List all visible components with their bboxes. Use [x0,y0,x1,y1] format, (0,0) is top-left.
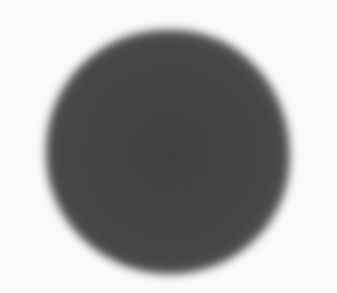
image-background [0,0,337,293]
dark-blob-core [60,40,280,266]
